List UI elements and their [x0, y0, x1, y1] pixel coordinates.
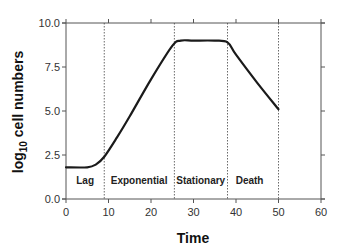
y-tick-label: 7.5 [45, 61, 60, 73]
x-tick-label: 40 [230, 206, 242, 218]
y-axis-title: log10 cell numbers [10, 51, 29, 174]
phase-label-exponential: Exponential [111, 175, 168, 186]
x-tick-label: 50 [272, 206, 284, 218]
x-tick-label: 60 [315, 206, 327, 218]
phase-label-death: Death [236, 175, 264, 186]
y-axis-title-rest: cell numbers [10, 51, 26, 141]
y-tick-label: 5.0 [45, 105, 60, 117]
growth-curve-line [66, 40, 279, 167]
y-tick-label: 10.0 [39, 17, 60, 29]
y-tick-label: 0.0 [45, 193, 60, 205]
x-axis-title: Time [177, 230, 210, 246]
phase-label-lag: Lag [76, 175, 94, 186]
phase-dividers [104, 23, 278, 199]
growth-curve-chart: 0102030405060 0.02.55.07.510.0 LagExpone… [0, 0, 345, 250]
x-tick-label: 20 [145, 206, 157, 218]
x-tick-label: 30 [187, 206, 199, 218]
y-axis-title-log: log [10, 152, 26, 173]
x-tick-label: 10 [102, 206, 114, 218]
plot-frame [62, 23, 325, 199]
x-tick-label: 0 [63, 206, 69, 218]
x-axis: 0102030405060 [63, 19, 327, 218]
phase-label-stationary: Stationary [176, 175, 225, 186]
y-axis-title-subscript: 10 [18, 141, 29, 153]
y-tick-label: 2.5 [45, 149, 60, 161]
